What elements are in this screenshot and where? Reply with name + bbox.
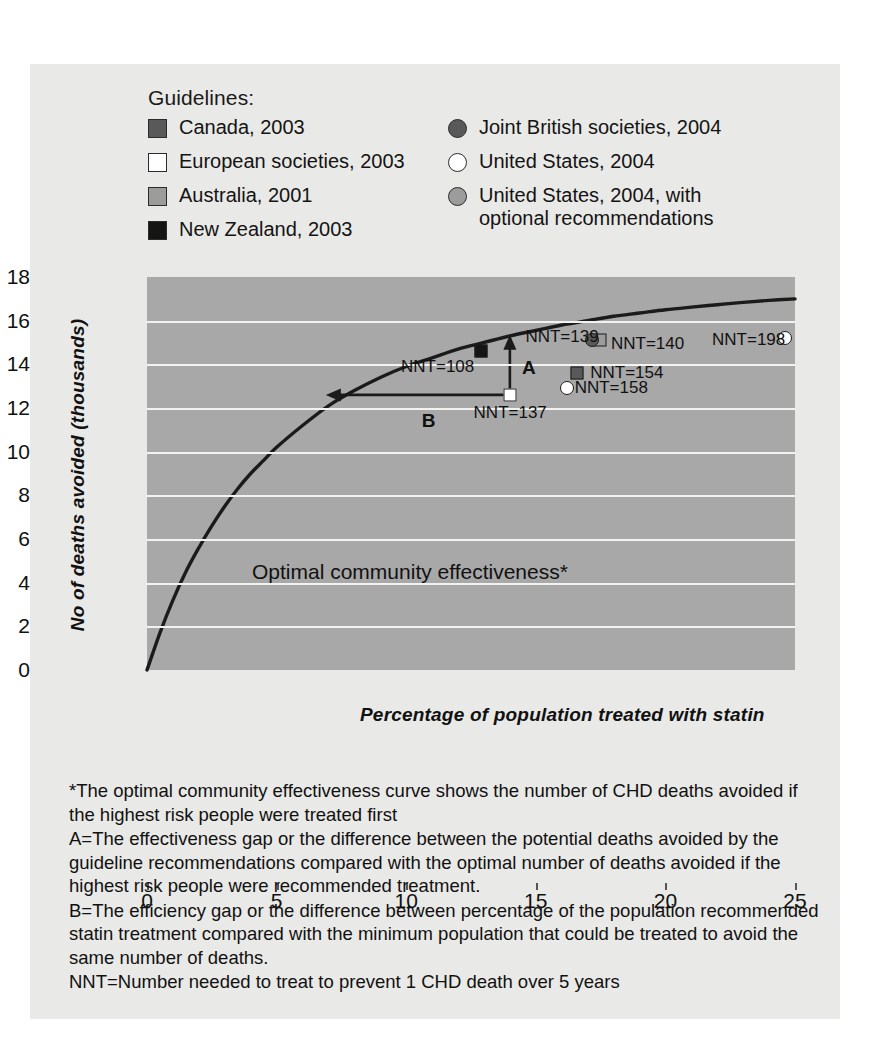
optimal-effectiveness-annotation: Optimal community effectiveness* (252, 560, 568, 584)
y-axis-tick-label: 2 (0, 614, 30, 638)
y-axis-tick-label: 18 (0, 265, 30, 289)
data-point-marker (475, 345, 488, 358)
gridline (147, 495, 795, 497)
gap-label-b: B (422, 410, 436, 432)
data-point-label: NNT=139 (525, 327, 598, 347)
footnote-nnt: NNT=Number needed to treat to prevent 1 … (56, 970, 826, 994)
figure-panel: Guidelines: Canada, 2003 European societ… (30, 64, 840, 1019)
x-axis-title: Percentage of population treated with st… (360, 704, 765, 726)
data-point-label: NNT=198 (712, 330, 785, 350)
footnote-a: A=The effectiveness gap or the differenc… (56, 827, 826, 898)
gridline (147, 626, 795, 628)
data-point-label: NNT=137 (474, 403, 547, 423)
plot-area: Optimal community effectiveness* 0246810… (147, 277, 795, 670)
y-axis-tick-label: 8 (0, 483, 30, 507)
y-axis-title: No of deaths avoided (thousands) (67, 275, 89, 675)
y-axis-tick-label: 16 (0, 309, 30, 333)
y-axis-tick-label: 0 (0, 658, 30, 682)
data-point-label: NNT=108 (401, 357, 474, 377)
footnote-b: B=The efficiency gap or the difference b… (56, 899, 826, 970)
footnote-asterisk: *The optimal community effectiveness cur… (56, 779, 826, 826)
data-point-marker (503, 388, 516, 401)
y-axis-tick-label: 10 (0, 440, 30, 464)
gridline (147, 539, 795, 541)
y-axis-tick-label: 4 (0, 571, 30, 595)
gridline (147, 452, 795, 454)
data-point-marker (560, 381, 574, 395)
gridline (147, 583, 795, 585)
optimal-effectiveness-curve (147, 277, 795, 670)
y-axis-tick-label: 12 (0, 396, 30, 420)
y-axis-tick-label: 6 (0, 527, 30, 551)
gridline (147, 321, 795, 323)
footnotes: *The optimal community effectiveness cur… (56, 779, 826, 995)
data-point-label: NNT=158 (575, 378, 648, 398)
y-axis-tick-label: 14 (0, 352, 30, 376)
data-point-label: NNT=140 (611, 334, 684, 354)
gap-label-a: A (522, 357, 536, 379)
gridline (147, 408, 795, 410)
